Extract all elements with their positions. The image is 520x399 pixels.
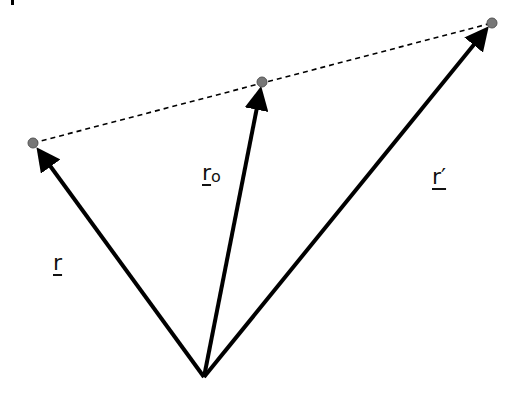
point-r0-tip xyxy=(257,77,267,87)
vector-r0-arrow xyxy=(204,92,260,377)
vector-r-prime-arrow xyxy=(204,31,485,377)
label-r0-subscript: o xyxy=(211,169,221,185)
vector-r-arrow xyxy=(40,152,204,377)
label-r0: ro xyxy=(202,162,221,184)
vector-diagram xyxy=(0,0,520,399)
label-r0-main: r xyxy=(202,160,211,185)
point-r-tip xyxy=(28,138,38,148)
label-r: r xyxy=(53,252,62,274)
corner-mark xyxy=(11,0,14,5)
label-r-prime: r′ xyxy=(432,166,446,188)
point-r-prime-tip xyxy=(487,18,497,28)
